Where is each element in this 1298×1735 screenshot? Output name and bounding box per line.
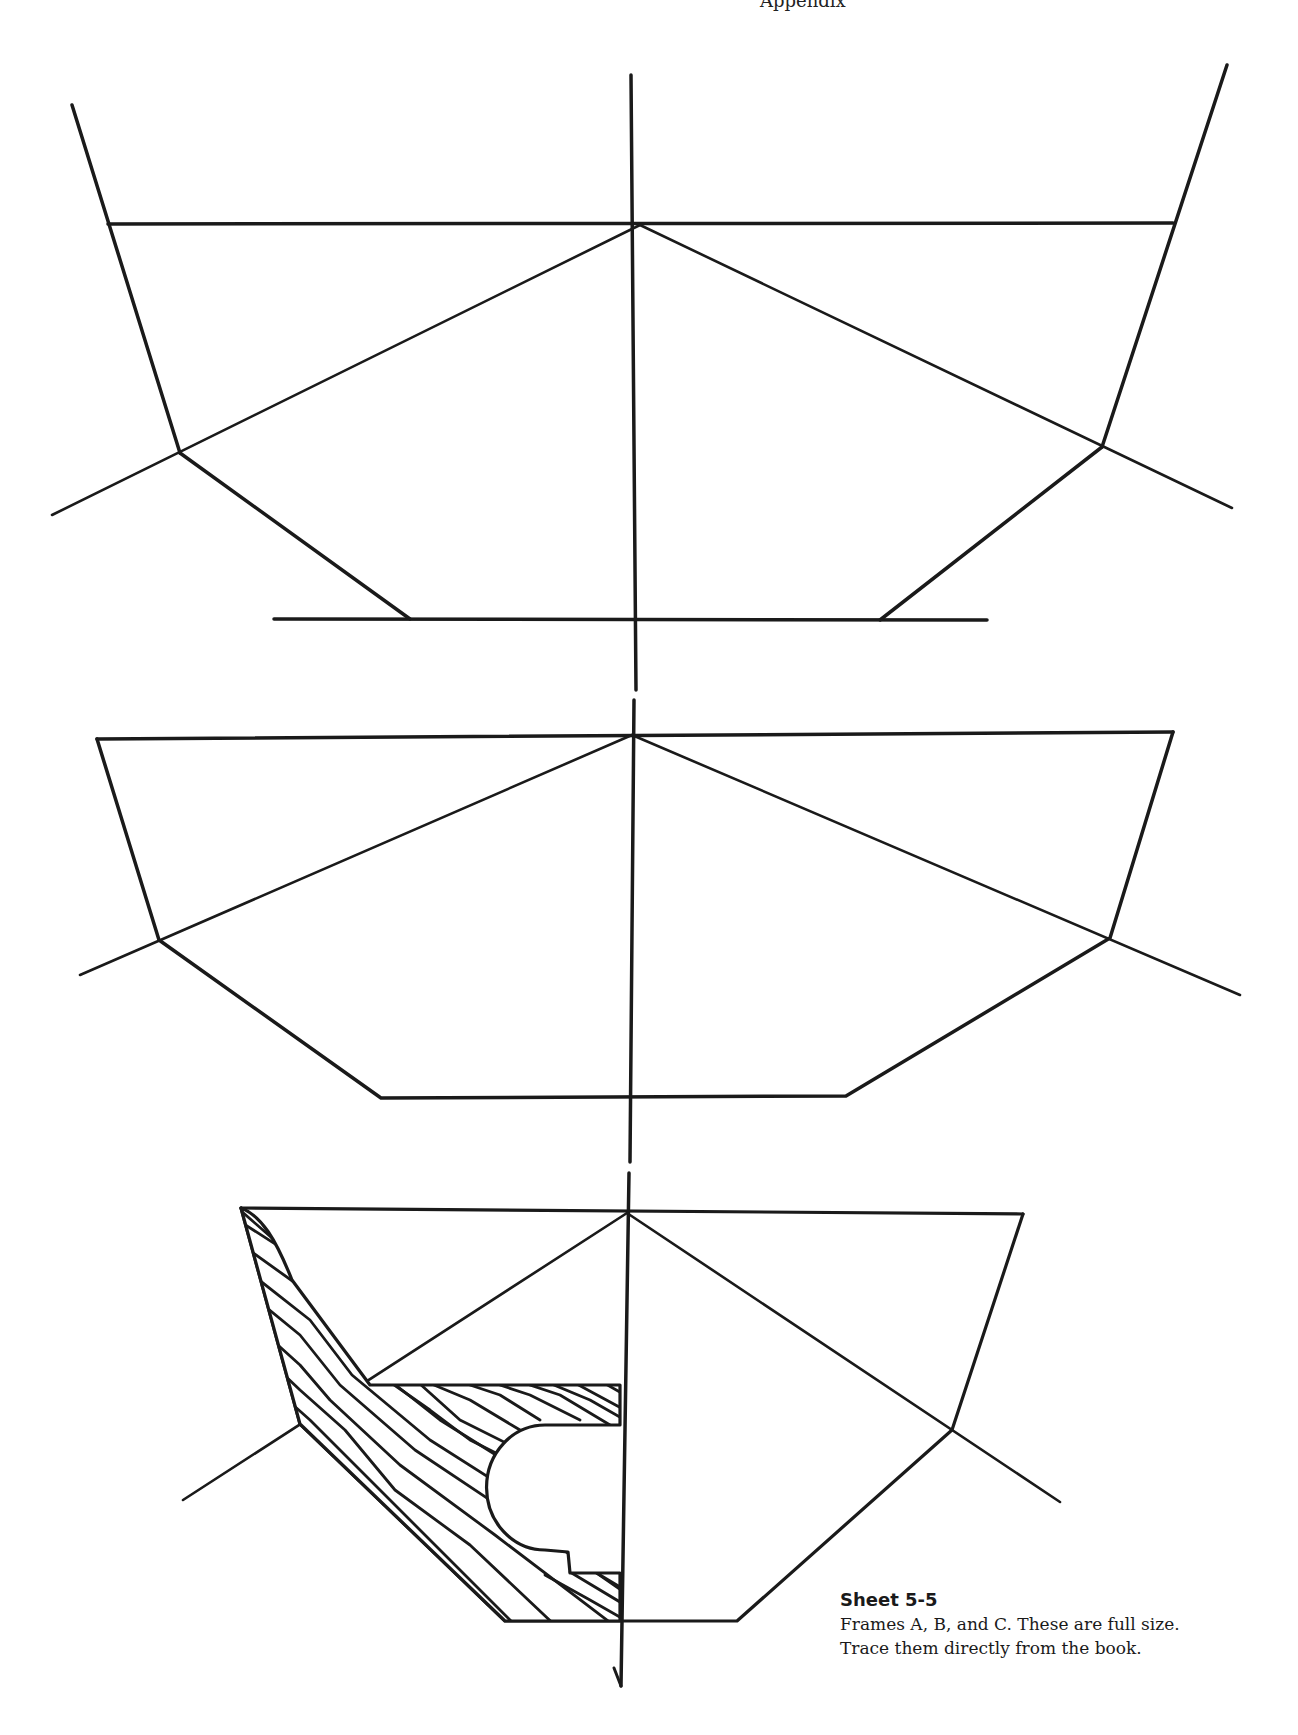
caption-title: Sheet 5-5 (840, 1588, 1280, 1612)
caption-line-2: Trace them directly from the book. (840, 1636, 1280, 1660)
centerline (614, 75, 636, 1686)
hatched-timber (230, 1208, 660, 1630)
frame-b (80, 732, 1240, 1098)
figure-caption: Sheet 5-5 Frames A, B, and C. These are … (840, 1588, 1280, 1660)
frames-drawing (0, 0, 1298, 1735)
caption-line-1: Frames A, B, and C. These are full size. (840, 1612, 1280, 1636)
frame-a (52, 65, 1232, 620)
